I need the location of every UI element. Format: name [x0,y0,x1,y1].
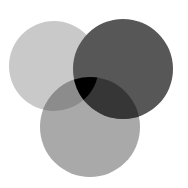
venn-diagram [0,0,188,188]
venn-diagram-svg [0,0,188,188]
